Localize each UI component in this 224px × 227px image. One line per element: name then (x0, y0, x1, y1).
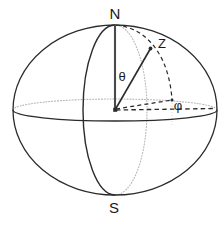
polar-angle-label: θ (118, 69, 125, 84)
azimuth-reference-line (116, 109, 216, 111)
spherical-coordinates-diagram: N S Z θ φ (0, 0, 224, 227)
azimuth-projection-line (116, 100, 172, 109)
meridian-front-arc (83, 25, 115, 195)
north-pole-label: N (110, 5, 121, 22)
point-z-label: Z (158, 36, 166, 51)
south-pole-label: S (109, 199, 119, 216)
point-z-marker (149, 47, 153, 51)
azimuth-angle-label: φ (174, 98, 182, 113)
center-point-marker (113, 108, 117, 112)
sphere-illustration: N S Z θ φ (0, 0, 224, 227)
